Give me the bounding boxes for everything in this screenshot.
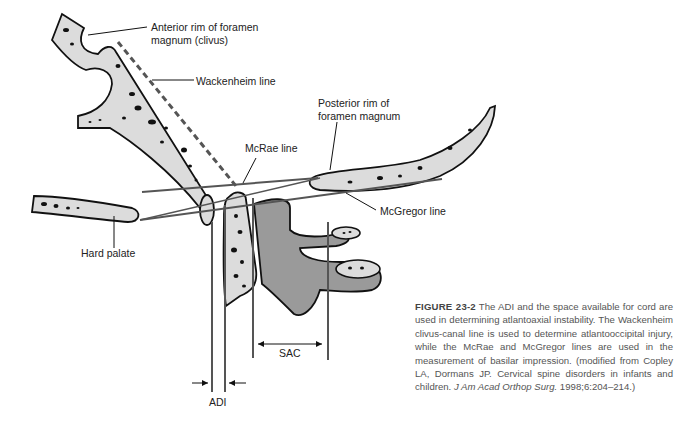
label-adi: ADI xyxy=(209,396,227,409)
c2-vertebra xyxy=(254,199,381,315)
label-wackenheim-line: Wackenheim line xyxy=(196,75,276,88)
label-hard-palate: Hard palate xyxy=(81,247,135,260)
caption-journal: J Am Acad Orthop Surg. xyxy=(454,381,557,392)
caption-text: The ADI and the space available for cord… xyxy=(415,301,673,392)
figure-number: FIGURE 23-2 xyxy=(415,301,476,312)
label-mcgregor-line: McGregor line xyxy=(380,205,446,218)
label-sac: SAC xyxy=(279,347,301,360)
label-mcrae-line: McRae line xyxy=(245,142,298,155)
figure-caption: FIGURE 23-2 The ADI and the space availa… xyxy=(415,300,673,394)
caption-citation: 1998;6:204–214.) xyxy=(557,381,635,392)
hard-palate-bone xyxy=(32,196,138,222)
label-anterior-rim: Anterior rim of foramen magnum (clivus) xyxy=(151,21,258,47)
label-posterior-rim: Posterior rim of foramen magnum xyxy=(318,97,400,123)
dens xyxy=(224,193,257,306)
c1-posterior-arch xyxy=(332,227,360,239)
c2-spinous-process xyxy=(336,260,380,278)
